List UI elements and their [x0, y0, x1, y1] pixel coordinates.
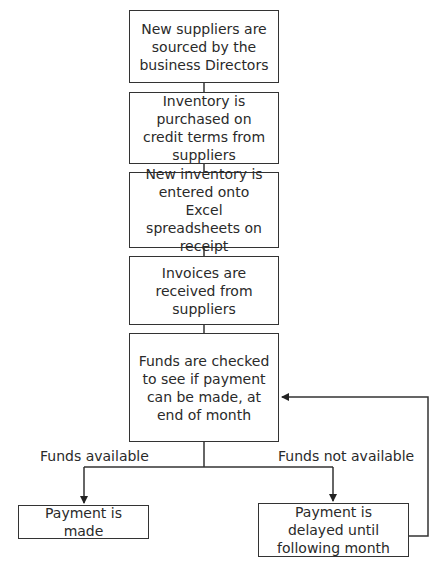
outcome-text: Payment is made [25, 504, 142, 540]
step-text: Funds are checked to see if payment can … [136, 352, 272, 424]
step-funds-checked: Funds are checked to see if payment can … [129, 333, 279, 442]
step-inventory-entered: New inventory is entered onto Excel spre… [129, 172, 279, 248]
step-invoices-received: Invoices are received from suppliers [129, 256, 279, 325]
outcome-payment-delayed: Payment is delayed until following month [258, 503, 409, 557]
step-text: Inventory is purchased on credit terms f… [136, 92, 272, 164]
outcome-payment-made: Payment is made [18, 505, 149, 539]
step-inventory-purchased: Inventory is purchased on credit terms f… [129, 92, 279, 164]
outcome-text: Payment is delayed until following month [265, 503, 402, 557]
step-text: New inventory is entered onto Excel spre… [144, 165, 264, 255]
step-text: New suppliers are sourced by the busines… [136, 20, 272, 74]
step-text: Invoices are received from suppliers [142, 264, 266, 318]
step-sourcing-suppliers: New suppliers are sourced by the busines… [129, 10, 279, 83]
branch-label-funds-available: Funds available [40, 447, 149, 465]
branch-label-funds-not-available: Funds not available [278, 447, 414, 465]
